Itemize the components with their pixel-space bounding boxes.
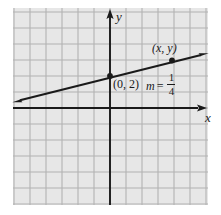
point-general-label: (x, y) — [152, 42, 177, 54]
y-intercept-label: (0, 2) — [113, 78, 139, 90]
coordinate-plane — [0, 0, 221, 215]
slope-symbol: m — [146, 80, 155, 92]
slope-fraction: 1 4 — [167, 72, 175, 97]
y-axis-label: y — [116, 10, 122, 23]
graph-figure: y x (x, y) (0, 2) m = 1 4 — [0, 0, 221, 215]
slope-label: m = 1 4 — [146, 73, 175, 98]
x-axis-label: x — [205, 111, 211, 124]
slope-numerator: 1 — [168, 72, 176, 84]
slope-denominator: 4 — [168, 85, 176, 97]
point-general-xy — [169, 58, 175, 64]
slope-equals: = — [157, 80, 164, 92]
